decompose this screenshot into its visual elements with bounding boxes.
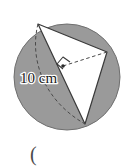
geometry-figure: 10 cm ( — [0, 0, 134, 166]
paren-glyph: ( — [30, 143, 37, 166]
center-point-dot — [61, 64, 65, 68]
measurement-label: 10 cm — [20, 70, 57, 86]
